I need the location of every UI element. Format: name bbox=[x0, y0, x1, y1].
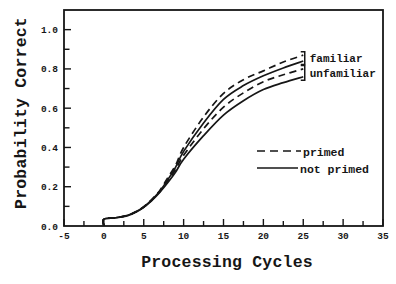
y-tick-label: 1.0 bbox=[41, 25, 58, 36]
x-tick-label: 0 bbox=[101, 231, 107, 242]
x-tick-label: 10 bbox=[178, 231, 190, 242]
figure: -5051015202530350.00.20.40.60.81.0 Proba… bbox=[0, 0, 396, 284]
x-tick-label: 25 bbox=[298, 231, 310, 242]
x-tick-label: 15 bbox=[218, 231, 230, 242]
x-tick-label: 20 bbox=[258, 231, 270, 242]
y-tick-label: 0.0 bbox=[41, 222, 58, 233]
chart-generated-layer: -5051015202530350.00.20.40.60.81.0 bbox=[41, 10, 389, 242]
annotation-label-familiar: familiar bbox=[310, 53, 363, 65]
curve-unfamiliar-primed bbox=[103, 69, 303, 226]
x-tick-label: 35 bbox=[377, 231, 389, 242]
chart-canvas: -5051015202530350.00.20.40.60.81.0 Proba… bbox=[0, 0, 396, 284]
y-tick-label: 0.2 bbox=[41, 182, 58, 193]
legend-label-not-primed: not primed bbox=[300, 163, 369, 176]
y-tick-label: 0.6 bbox=[41, 104, 58, 115]
plot-border bbox=[64, 10, 383, 226]
legend-label-primed: primed bbox=[303, 146, 345, 159]
bracket-familiar bbox=[301, 52, 305, 65]
x-tick-label: 30 bbox=[337, 231, 349, 242]
x-axis-title: Processing Cycles bbox=[141, 253, 313, 272]
annotation-label-unfamiliar: unfamiliar bbox=[310, 68, 376, 80]
curve-familiar-primed bbox=[103, 55, 303, 226]
x-tick-label: 5 bbox=[141, 231, 147, 242]
y-axis-title: Probability Correct bbox=[12, 17, 31, 209]
y-tick-label: 0.4 bbox=[41, 143, 58, 154]
y-tick-label: 0.8 bbox=[41, 64, 58, 75]
x-tick-label: -5 bbox=[58, 231, 70, 242]
